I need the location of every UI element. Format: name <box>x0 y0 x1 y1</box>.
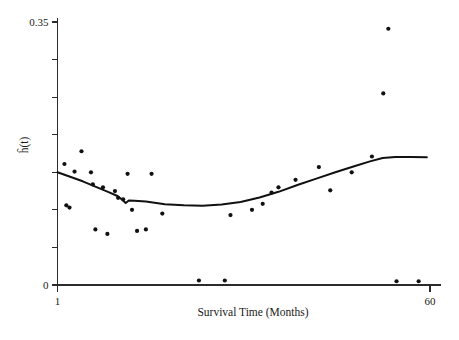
data-point <box>144 227 148 231</box>
hazard-function-figure: 00.35160 Survival Time (Months) ĥ(t) <box>0 0 459 340</box>
data-point <box>72 169 76 173</box>
data-point <box>417 279 421 283</box>
x-tick-label: 1 <box>55 295 61 307</box>
data-point <box>62 162 66 166</box>
data-point <box>394 279 398 283</box>
x-axis-title: Survival Time (Months) <box>197 306 308 319</box>
x-tick-label: 60 <box>425 295 437 307</box>
data-point <box>269 190 273 194</box>
data-point <box>113 189 117 193</box>
data-point <box>67 206 71 210</box>
scatter-point-group <box>62 27 420 284</box>
data-point <box>197 278 201 282</box>
data-point <box>89 170 93 174</box>
data-point <box>160 212 164 216</box>
tick-label-group: 00.35160 <box>29 16 436 307</box>
data-point <box>293 178 297 182</box>
data-point <box>328 188 332 192</box>
data-point <box>381 91 385 95</box>
data-point <box>101 185 105 189</box>
data-point <box>370 154 374 158</box>
data-point <box>317 165 321 169</box>
smoothed-hazard-curve <box>58 157 427 206</box>
data-point <box>116 196 120 200</box>
data-point <box>130 208 134 212</box>
y-tick-label: 0.35 <box>29 16 49 28</box>
data-point <box>105 232 109 236</box>
data-point <box>93 227 97 231</box>
data-point <box>261 202 265 206</box>
data-point <box>250 208 254 212</box>
data-point <box>223 278 227 282</box>
data-point <box>228 213 232 217</box>
y-tick-label: 0 <box>43 279 49 291</box>
data-point <box>91 182 95 186</box>
data-point <box>276 185 280 189</box>
data-point <box>386 27 390 31</box>
data-point <box>350 170 354 174</box>
data-point <box>135 229 139 233</box>
data-point <box>149 172 153 176</box>
y-axis-title: ĥ(t) <box>17 137 31 154</box>
data-point <box>125 172 129 176</box>
x-axis-tick-group <box>58 285 431 292</box>
data-point <box>121 197 125 201</box>
y-axis-tick-group <box>52 22 58 285</box>
data-point <box>79 149 83 153</box>
chart-canvas: 00.35160 Survival Time (Months) ĥ(t) <box>0 0 459 340</box>
